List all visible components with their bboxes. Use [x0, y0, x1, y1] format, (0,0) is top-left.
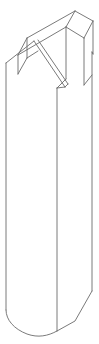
main-body-left-face: [6, 63, 57, 337]
main-body-right-face: [57, 52, 92, 331]
isometric-column-drawing: Isometric line drawing of a slotted rect…: [0, 0, 99, 344]
main-body-group: [6, 52, 92, 337]
figure-canvas: Isometric line drawing of a slotted rect…: [0, 0, 99, 344]
